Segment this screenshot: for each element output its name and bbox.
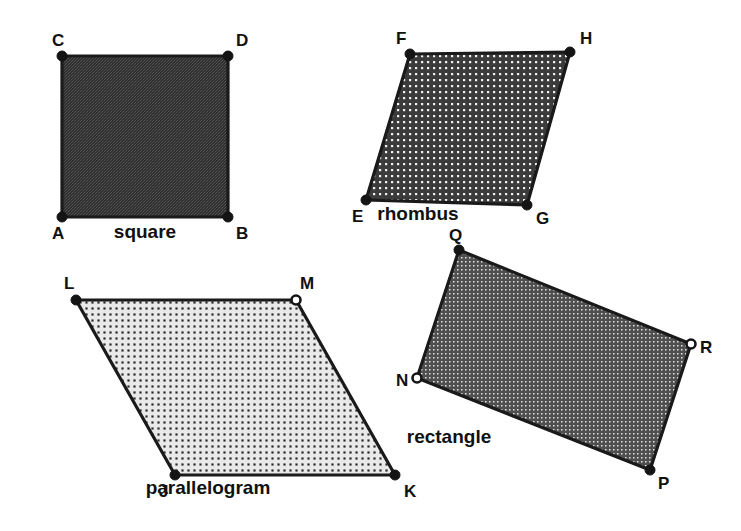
shape-name-rhombus: rhombus: [377, 203, 458, 224]
shape-name-square: square: [114, 221, 176, 242]
vertex-label-D: D: [236, 31, 248, 50]
vertex-marker-F[interactable]: [405, 49, 415, 59]
shape-rhombus[interactable]: F H E G rhombus: [352, 29, 592, 228]
vertex-label-H: H: [580, 29, 592, 48]
shape-name-parallelogram: parallelogram: [146, 477, 271, 498]
vertex-marker-A[interactable]: [57, 212, 67, 222]
vertex-label-B: B: [236, 224, 248, 243]
vertex-marker-N[interactable]: [413, 374, 422, 383]
vertex-label-F: F: [396, 29, 406, 48]
shape-square[interactable]: C D A B square: [52, 31, 248, 243]
vertex-marker-B[interactable]: [223, 212, 233, 222]
vertex-marker-E[interactable]: [361, 195, 371, 205]
vertex-label-K: K: [404, 482, 417, 501]
geometry-figure: C D A B square F H E G rhombus L M J: [0, 0, 741, 531]
vertex-marker-P[interactable]: [645, 465, 655, 475]
vertex-label-M: M: [300, 274, 314, 293]
vertex-marker-R[interactable]: [687, 340, 696, 349]
vertex-label-L: L: [64, 274, 74, 293]
square-outline: [62, 56, 228, 217]
vertex-label-E: E: [352, 207, 363, 226]
vertex-marker-K[interactable]: [390, 470, 400, 480]
rhombus-outline: [366, 52, 570, 205]
quadrilaterals-canvas: C D A B square F H E G rhombus L M J: [0, 0, 741, 531]
vertex-label-N: N: [396, 371, 408, 390]
vertex-label-R: R: [700, 338, 712, 357]
vertex-marker-H[interactable]: [565, 47, 575, 57]
parallelogram-outline: [76, 300, 395, 475]
vertex-label-Q: Q: [449, 226, 462, 245]
vertex-label-C: C: [52, 31, 64, 50]
vertex-marker-L[interactable]: [71, 295, 81, 305]
vertex-label-A: A: [52, 224, 64, 243]
vertex-label-P: P: [658, 474, 669, 493]
vertex-marker-C[interactable]: [57, 51, 67, 61]
vertex-label-G: G: [536, 209, 549, 228]
vertex-marker-Q[interactable]: [454, 245, 464, 255]
shape-name-rectangle: rectangle: [407, 426, 491, 447]
vertex-marker-D[interactable]: [223, 51, 233, 61]
vertex-marker-M[interactable]: [292, 296, 301, 305]
shape-parallelogram[interactable]: L M J K parallelogram: [64, 274, 417, 501]
shape-rectangle[interactable]: Q R N P rectangle: [396, 226, 712, 493]
vertex-marker-G[interactable]: [522, 200, 532, 210]
